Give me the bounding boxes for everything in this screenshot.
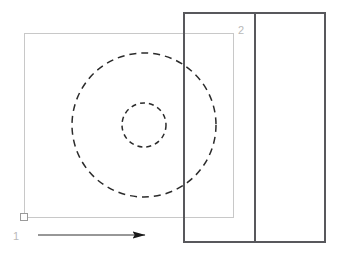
inner-hidden-circle: [122, 103, 166, 147]
view-label-two: 2: [238, 24, 244, 36]
origin-square-marker: [21, 214, 28, 221]
outer-hidden-circle: [72, 53, 216, 197]
construction-rectangle: [24, 33, 233, 217]
diagram-canvas: 1 2: [0, 0, 339, 255]
diagram-svg: 1 2: [0, 0, 339, 255]
view-label-one: 1: [13, 230, 19, 242]
